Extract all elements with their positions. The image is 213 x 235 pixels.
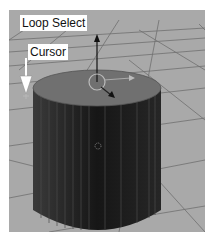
loop-select-label: Loop Select	[20, 15, 87, 31]
cursor-pointer-arrow	[20, 76, 32, 94]
cursor-label: Cursor	[28, 44, 68, 60]
cylinder-side	[33, 88, 161, 230]
gizmo-up-arrow	[94, 34, 100, 42]
